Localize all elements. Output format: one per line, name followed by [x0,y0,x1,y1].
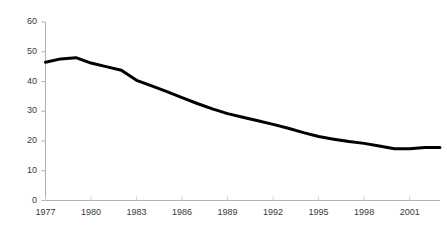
y-tick-label: 50 [11,47,37,56]
y-tick-label: 40 [11,77,37,86]
line-chart: 0102030405060 19771980198319861989199219… [0,0,447,239]
x-tick-label: 1998 [344,208,384,217]
x-tick-label: 1986 [162,208,202,217]
data-series-line [46,58,441,149]
y-tick-label: 60 [11,17,37,26]
x-tick-label: 1980 [71,208,111,217]
y-tick-label: 10 [11,166,37,175]
y-tick-label: 20 [11,136,37,145]
x-axis [46,197,441,201]
chart-canvas [0,0,447,239]
x-tick-label: 1989 [208,208,248,217]
x-tick-label: 1983 [117,208,157,217]
y-tick-marks [42,22,46,201]
x-tick-label: 1995 [299,208,339,217]
x-tick-label: 1977 [26,208,66,217]
y-tick-label: 0 [11,196,37,205]
y-tick-label: 30 [11,106,37,115]
x-tick-label: 1992 [253,208,293,217]
y-axis [42,22,46,201]
x-tick-label: 2001 [390,208,430,217]
x-tick-marks [46,197,410,201]
